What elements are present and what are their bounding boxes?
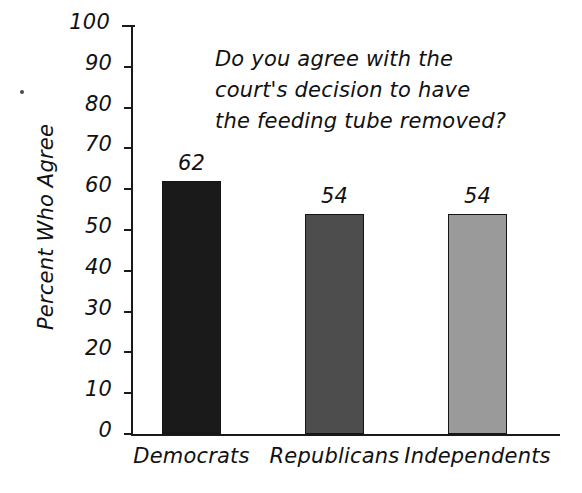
x-axis-line bbox=[131, 434, 560, 436]
speck-artifact bbox=[20, 90, 24, 94]
y-tick-label-10: 10 bbox=[52, 377, 112, 401]
bar-republicans bbox=[305, 214, 364, 434]
y-tick-10: 10 bbox=[124, 392, 133, 394]
y-tick-label-70: 70 bbox=[52, 132, 112, 156]
bar-democrats bbox=[162, 181, 221, 434]
y-tick-label-60: 60 bbox=[52, 173, 112, 197]
y-tick-90: 90 bbox=[124, 66, 133, 68]
y-tick-40: 40 bbox=[124, 270, 133, 272]
y-tick-label-0: 0 bbox=[52, 418, 112, 442]
x-label-republicans: Republicans bbox=[255, 444, 415, 468]
y-tick-label-40: 40 bbox=[52, 255, 112, 279]
y-tick-0: 0 bbox=[124, 433, 133, 435]
x-label-democrats: Democrats bbox=[112, 444, 272, 468]
y-tick-label-90: 90 bbox=[52, 51, 112, 75]
chart-canvas: Percent Who Agree Do you agree with the … bbox=[0, 0, 582, 493]
y-tick-label-20: 20 bbox=[52, 336, 112, 360]
y-tick-label-30: 30 bbox=[52, 296, 112, 320]
bar-value-independents: 54 bbox=[438, 184, 518, 208]
y-tick-label-50: 50 bbox=[52, 214, 112, 238]
bar-independents bbox=[448, 214, 507, 434]
y-tick-label-80: 80 bbox=[52, 92, 112, 116]
y-tick-50: 50 bbox=[124, 229, 133, 231]
y-tick-label-100: 100 bbox=[50, 10, 110, 34]
y-tick-80: 80 bbox=[124, 107, 133, 109]
plot-area: 1009080706050403020100 625454 DemocratsR… bbox=[131, 26, 560, 434]
y-tick-70: 70 bbox=[124, 147, 133, 149]
y-tick-30: 30 bbox=[124, 311, 133, 313]
bar-value-democrats: 62 bbox=[152, 151, 232, 175]
bar-value-republicans: 54 bbox=[295, 184, 375, 208]
y-tick-20: 20 bbox=[124, 351, 133, 353]
y-tick-100: 100 bbox=[122, 25, 135, 27]
x-label-independents: Independents bbox=[398, 444, 558, 468]
y-tick-60: 60 bbox=[124, 188, 133, 190]
